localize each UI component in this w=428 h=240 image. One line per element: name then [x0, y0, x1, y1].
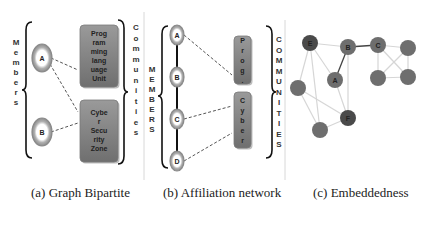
community-label-line: Unit — [92, 75, 106, 82]
members-label-letter: R — [149, 115, 155, 124]
members-label-letter: s — [14, 98, 19, 107]
membership-link — [51, 58, 78, 70]
community-label-line: r — [241, 47, 244, 54]
node-label: C — [174, 116, 179, 123]
community-box-2: CyberSecurityZone — [80, 100, 120, 164]
panel-c-embeddedness: EBCAF — [290, 35, 416, 138]
members-label: MEMBERS — [149, 65, 156, 134]
members-label-letter: r — [14, 88, 17, 97]
node-label: A — [332, 77, 337, 84]
community-label-line: g — [240, 67, 244, 75]
communities-label: Communities — [132, 23, 139, 137]
members-label-letter: M — [149, 85, 156, 94]
network-node-e: E — [302, 35, 318, 51]
communities-label-letter: S — [276, 140, 282, 149]
node-label: D — [174, 158, 179, 165]
network-node-c: C — [370, 37, 386, 53]
member-node-a: A — [32, 44, 52, 72]
caption-c: (c) Embeddedness — [313, 185, 409, 201]
community-box-1: ProgramminglanguageUnit — [80, 25, 120, 89]
communities-label-letter: s — [134, 128, 139, 137]
membership-links — [50, 58, 78, 132]
network-node-n5 — [312, 122, 328, 138]
member-node-d: D — [170, 151, 184, 171]
members-label-letter: e — [14, 78, 19, 87]
communities-label-letter: t — [135, 97, 138, 106]
communities-label-letter: u — [134, 65, 139, 74]
member-node-c: C — [170, 109, 184, 129]
community-box-2: Cyber — [234, 92, 253, 150]
members-label-letter: b — [14, 68, 19, 77]
node-label: F — [346, 115, 351, 122]
community-label-line: r — [98, 118, 101, 125]
members-label-letter: m — [12, 58, 19, 67]
communities-label-letter: i — [135, 86, 137, 95]
network-node-n3 — [370, 70, 386, 86]
community-label-line: e — [241, 127, 245, 134]
communities-label-letter: m — [132, 55, 139, 64]
panel-b-affiliation-network: MEMBERS COMMUNITIES ABCD Prog.Cyber — [149, 25, 283, 171]
membership-links — [184, 35, 232, 161]
members-label-letter: M — [13, 38, 20, 47]
network-nodes: EBCAF — [290, 35, 416, 138]
community-label-line: Secu — [91, 127, 108, 134]
communities-label-letter: M — [276, 56, 283, 65]
community-label-line: C — [240, 97, 245, 104]
membership-link — [51, 123, 78, 132]
membership-link — [184, 106, 232, 119]
communities-brace — [266, 26, 276, 158]
members-label-letter: E — [149, 75, 155, 84]
members-label: Members — [12, 38, 19, 107]
network-node-n4 — [400, 69, 416, 85]
communities-label-letter: I — [278, 119, 280, 128]
community-label-line: P — [240, 37, 245, 44]
network-node-b: B — [340, 39, 356, 55]
community-label-line: ram — [93, 39, 106, 46]
caption-b: (b) Affiliation network — [163, 185, 281, 201]
communities-label-letter: m — [132, 44, 139, 53]
communities-label-letter: N — [276, 88, 282, 97]
network-node-f: F — [340, 110, 356, 126]
community-label-line: Prog — [91, 30, 107, 38]
network-node-n1 — [400, 40, 416, 56]
node-label: B — [39, 129, 44, 136]
communities-label-letter: I — [278, 98, 280, 107]
communities-label-letter: n — [134, 76, 139, 85]
community-label-line: b — [240, 117, 244, 124]
panel-a-graph-bipartite: Members Communities AB Programminglangua… — [12, 20, 139, 164]
caption-a: (a) Graph Bipartite — [31, 185, 130, 201]
members-label-letter: E — [149, 105, 155, 114]
members-brace — [22, 22, 32, 158]
community-boxes: ProgramminglanguageUnitCyberSecurityZone — [80, 25, 120, 164]
node-label: A — [39, 55, 44, 62]
network-node-a: A — [327, 72, 343, 88]
communities-label-letter: M — [276, 67, 283, 76]
communities-label: COMMUNITIES — [276, 35, 283, 149]
members-label-letter: B — [149, 95, 155, 104]
node-label: A — [174, 32, 179, 39]
members-label-letter: S — [149, 125, 155, 134]
membership-link — [50, 64, 78, 112]
membership-link — [184, 35, 232, 75]
membership-link — [184, 133, 232, 161]
community-label-line: uage — [91, 66, 107, 74]
communities-label-letter: i — [135, 107, 137, 116]
members-brace — [158, 26, 168, 168]
community-label-line: o — [240, 57, 244, 64]
members-label-letter: e — [14, 48, 19, 57]
community-label-line: r — [241, 137, 244, 144]
network-node-n2 — [290, 80, 306, 96]
community-label-line: y — [241, 107, 245, 115]
communities-label-letter: e — [134, 118, 139, 127]
node-label: B — [345, 44, 350, 51]
community-label-line: Cybe — [90, 109, 107, 117]
community-boxes: Prog.Cyber — [234, 36, 253, 150]
communities-label-letter: E — [276, 130, 282, 139]
member-nodes: AB — [32, 44, 52, 146]
node-label: B — [174, 74, 179, 81]
communities-label-letter: U — [276, 77, 282, 86]
member-node-b: B — [170, 67, 184, 87]
community-label-line: ming — [91, 48, 108, 56]
node-label: E — [308, 40, 313, 47]
members-label-letter: M — [149, 65, 156, 74]
